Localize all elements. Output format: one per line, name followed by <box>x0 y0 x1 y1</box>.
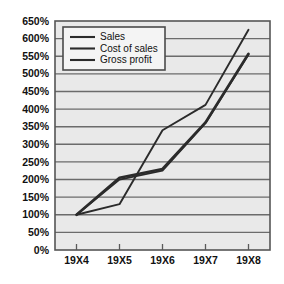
y-axis-tick-label: 450% <box>22 85 50 97</box>
chart-legend[interactable]: Sales Cost of sales Gross profit <box>63 27 165 70</box>
x-axis-tick-label: 19X6 <box>150 254 175 266</box>
x-axis-tick-label: 19X4 <box>64 254 89 266</box>
line-chart-figure: 0%50%100%150%200%250%300%350%400%450%500… <box>0 0 284 284</box>
y-axis-tick-label: 100% <box>22 208 50 220</box>
x-axis-tick-label: 19X7 <box>193 254 218 266</box>
y-axis-tick-label: 150% <box>22 191 50 203</box>
y-axis-tick-label: 650% <box>22 15 50 27</box>
y-axis-tick-label: 50% <box>28 226 50 238</box>
x-axis-tick-labels: 19X419X519X619X719X8 <box>64 254 261 266</box>
legend-label-sales: Sales <box>100 31 125 42</box>
y-axis-tick-label: 250% <box>22 156 50 168</box>
x-axis-tick-label: 19X5 <box>107 254 132 266</box>
y-axis-tick-label: 500% <box>22 67 50 79</box>
y-axis-tick-label: 0% <box>34 244 50 256</box>
y-axis-tick-label: 350% <box>22 120 50 132</box>
y-axis-tick-label: 300% <box>22 138 50 150</box>
y-axis-tick-label: 550% <box>22 50 50 62</box>
x-axis-tick-label: 19X8 <box>236 254 261 266</box>
y-axis-tick-label: 200% <box>22 173 50 185</box>
y-axis-tick-label: 400% <box>22 103 50 115</box>
legend-label-cost-of-sales: Cost of sales <box>100 43 158 54</box>
y-axis-tick-labels: 0%50%100%150%200%250%300%350%400%450%500… <box>22 15 50 256</box>
chart-canvas: 0%50%100%150%200%250%300%350%400%450%500… <box>0 0 284 284</box>
legend-label-gross-profit: Gross profit <box>100 54 152 65</box>
y-axis-tick-label: 600% <box>22 32 50 44</box>
